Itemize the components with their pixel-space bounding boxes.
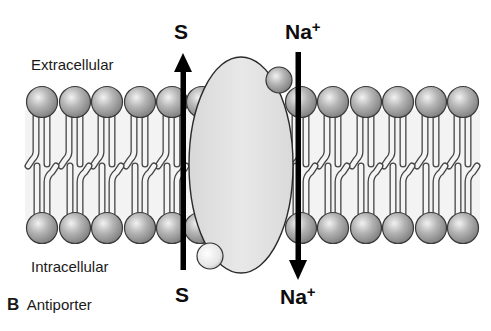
sodium-symbol: Na: [285, 20, 312, 43]
figure-caption: B Antiporter: [7, 295, 92, 315]
substrate-top-label: S: [174, 20, 188, 44]
substrate-binding-ball: [197, 243, 223, 269]
sodium-symbol: Na: [280, 285, 307, 308]
substrate-symbol: S: [175, 283, 189, 306]
extracellular-label: Extracellular: [31, 56, 114, 73]
membrane-illustration: [0, 0, 491, 331]
sodium-bottom-label: Na+: [280, 285, 316, 309]
substrate-bottom-label: S: [175, 283, 189, 307]
antiporter-diagram: Extracellular Intracellular S S Na+ Na+ …: [0, 0, 491, 331]
charge-superscript: +: [312, 18, 321, 35]
caption-text: Antiporter: [27, 296, 92, 313]
intracellular-label: Intracellular: [31, 258, 109, 275]
substrate-symbol: S: [174, 20, 188, 43]
panel-letter: B: [7, 295, 19, 314]
sodium-binding-ball: [266, 67, 292, 93]
charge-superscript: +: [307, 283, 316, 300]
sodium-top-label: Na+: [285, 20, 321, 44]
